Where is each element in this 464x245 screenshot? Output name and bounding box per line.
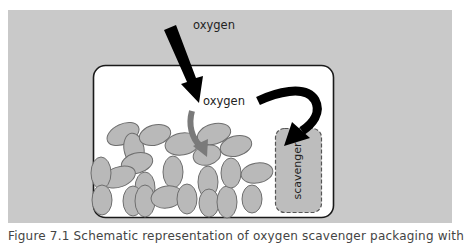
- oxygen-outside-label: oxygen: [193, 18, 235, 32]
- figure-caption: Figure 7.1 Schematic representation of o…: [8, 229, 464, 243]
- scavenger-label: scavenger: [291, 142, 304, 200]
- oxygen-inside-label: oxygen: [203, 94, 245, 108]
